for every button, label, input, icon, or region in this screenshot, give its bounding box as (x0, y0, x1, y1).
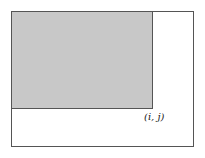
corner-label-i-j: (i, j) (144, 111, 164, 122)
shaded-subrectangle (11, 11, 153, 109)
